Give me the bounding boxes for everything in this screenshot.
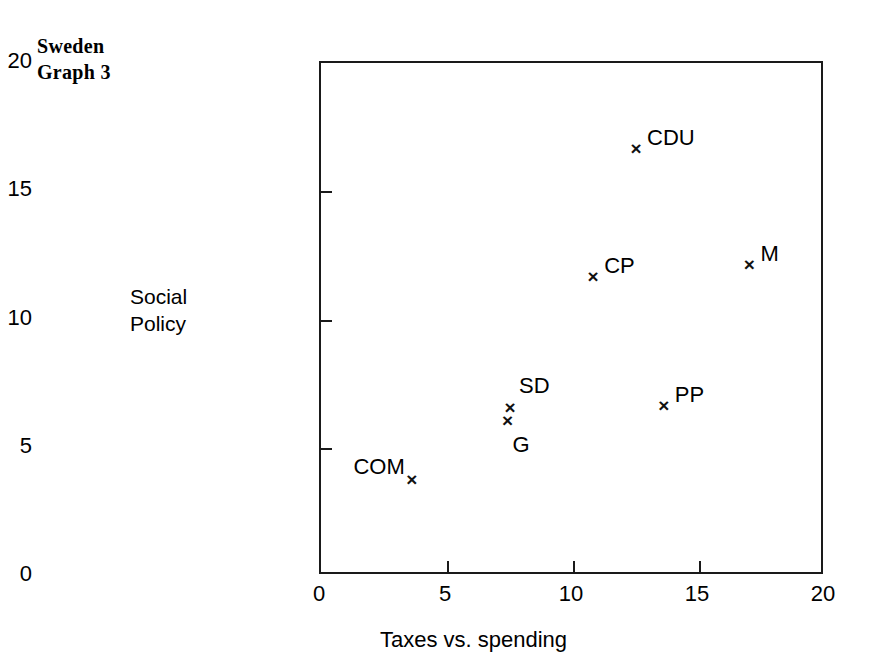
x-tick-mark	[573, 561, 575, 572]
scatter-point-label: G	[512, 434, 529, 456]
x-tick-label: 10	[541, 583, 601, 605]
scatter-point-label: SD	[519, 375, 550, 397]
scatter-point-label: M	[760, 243, 778, 265]
y-tick-label: 5	[0, 435, 32, 457]
y-axis-title-line1: Social	[130, 283, 187, 310]
x-marker-icon: ×	[629, 138, 643, 160]
y-tick-label: 10	[0, 307, 32, 329]
scatter-point-label: PP	[675, 384, 704, 406]
y-tick-label: 15	[0, 178, 32, 200]
y-tick-mark	[321, 448, 332, 450]
page-title: Sweden Graph 3	[37, 33, 111, 85]
title-line-graph-number: Graph 3	[37, 59, 111, 85]
x-marker-icon: ×	[586, 266, 600, 288]
scatter-point-label: COM	[353, 456, 404, 478]
y-tick-mark	[321, 191, 332, 193]
scatter-point-label: CP	[604, 255, 635, 277]
scatter-point-label: CDU	[647, 127, 695, 149]
title-line-country: Sweden	[37, 33, 111, 59]
x-tick-label: 20	[793, 583, 853, 605]
y-tick-mark	[321, 320, 332, 322]
chart-page: Sweden Graph 3 Social Policy Taxes vs. s…	[0, 0, 871, 671]
y-axis-title: Social Policy	[130, 283, 187, 337]
y-tick-label: 0	[0, 563, 32, 585]
x-axis-title-text: Taxes vs. spending	[380, 627, 567, 653]
x-tick-label: 5	[415, 583, 475, 605]
x-tick-mark	[447, 561, 449, 572]
x-marker-icon: ×	[657, 395, 671, 417]
plot-area: ×CDU×M×CP×SD×PP×G×COM	[319, 61, 823, 574]
y-tick-label: 20	[0, 50, 32, 72]
x-marker-icon: ×	[742, 254, 756, 276]
x-marker-icon: ×	[500, 410, 514, 432]
y-axis-title-line2: Policy	[130, 310, 187, 337]
x-tick-mark	[699, 561, 701, 572]
x-marker-icon: ×	[405, 469, 419, 491]
x-axis-title: Taxes vs. spending	[0, 627, 871, 653]
x-tick-label: 15	[667, 583, 727, 605]
x-tick-label: 0	[289, 583, 349, 605]
